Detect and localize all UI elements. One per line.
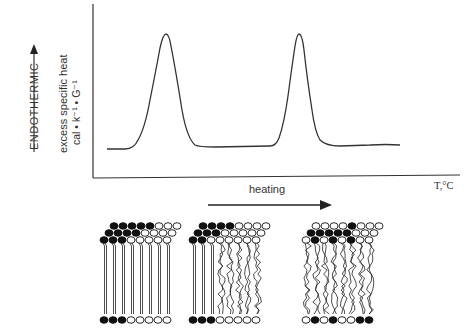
arrow-right-icon <box>320 200 332 210</box>
diagram-canvas <box>0 0 471 331</box>
heating-label: heating <box>249 183 285 195</box>
thermogram-curve <box>107 34 400 149</box>
y-axis-units: cal • k⁻¹ • G⁻¹ <box>70 80 82 145</box>
x-axis <box>93 175 460 178</box>
fluid-phase-bilayer <box>302 223 383 324</box>
x-axis-unit: T,°C <box>434 180 453 191</box>
phase-separated-bilayer <box>189 223 270 324</box>
heating-arrow <box>208 200 332 210</box>
y-axis-label: excess specific heat <box>57 55 69 153</box>
axes <box>93 4 460 178</box>
arrow-up-icon <box>30 44 38 54</box>
gel-phase-bilayer <box>100 223 181 324</box>
endothermic-label: ENDOTHERMIC <box>28 63 40 150</box>
